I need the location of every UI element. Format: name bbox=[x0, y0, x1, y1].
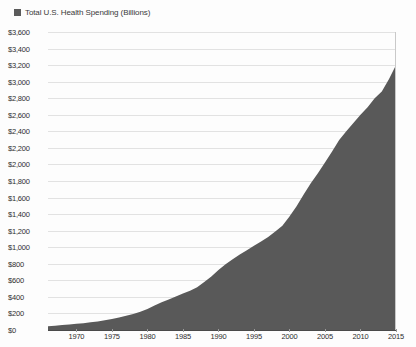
x-axis-tickmark bbox=[183, 329, 184, 332]
x-axis-tickmark bbox=[76, 329, 77, 332]
y-axis-tick-label: $600 bbox=[8, 276, 42, 285]
x-axis: 1970197519801985199019952000200520102015 bbox=[48, 332, 396, 346]
x-axis-tick-label: 1995 bbox=[246, 332, 262, 341]
plot-right-edge bbox=[395, 32, 396, 330]
x-axis-tick-label: 2000 bbox=[282, 332, 298, 341]
y-axis-tick-label: $2,200 bbox=[8, 143, 42, 152]
x-axis-tick-label: 2010 bbox=[353, 332, 369, 341]
y-axis-tick-label: $1,000 bbox=[8, 243, 42, 252]
x-axis-tickmark bbox=[254, 329, 255, 332]
y-axis-tick-label: $3,000 bbox=[8, 77, 42, 86]
y-axis-tick-label: $1,400 bbox=[8, 210, 42, 219]
y-axis-tick-label: $2,400 bbox=[8, 127, 42, 136]
gridline bbox=[48, 330, 396, 331]
x-axis-tickmark bbox=[289, 329, 290, 332]
y-axis-tick-label: $1,800 bbox=[8, 177, 42, 186]
y-axis-tick-label: $1,200 bbox=[8, 226, 42, 235]
x-axis-tick-label: 1990 bbox=[210, 332, 226, 341]
area-series bbox=[48, 32, 396, 330]
y-axis-tick-label: $3,200 bbox=[8, 61, 42, 70]
legend-swatch-icon bbox=[14, 9, 21, 16]
x-axis-tick-label: 1980 bbox=[139, 332, 155, 341]
x-axis-tick-label: 1985 bbox=[175, 332, 191, 341]
y-axis-tick-label: $3,400 bbox=[8, 44, 42, 53]
y-axis-tick-label: $2,000 bbox=[8, 160, 42, 169]
x-axis-tickmark bbox=[112, 329, 113, 332]
y-axis: $3,600$3,400$3,200$3,000$2,800$2,600$2,4… bbox=[0, 32, 46, 330]
x-axis-tickmark bbox=[147, 329, 148, 332]
y-axis-tick-label: $1,600 bbox=[8, 193, 42, 202]
legend-label: Total U.S. Health Spending (Billions) bbox=[25, 8, 150, 17]
y-axis-tick-label: $3,600 bbox=[8, 28, 42, 37]
y-axis-tick-label: $0 bbox=[8, 326, 42, 335]
x-axis-tick-label: 2005 bbox=[317, 332, 333, 341]
chart-figure: Total U.S. Health Spending (Billions) $3… bbox=[0, 0, 416, 347]
chart-legend: Total U.S. Health Spending (Billions) bbox=[14, 6, 150, 18]
x-axis-tickmark bbox=[360, 329, 361, 332]
y-axis-tick-label: $800 bbox=[8, 259, 42, 268]
x-axis-tickmark bbox=[325, 329, 326, 332]
x-axis-tick-label: 1970 bbox=[68, 332, 84, 341]
y-axis-tick-label: $200 bbox=[8, 309, 42, 318]
y-axis-tick-label: $2,800 bbox=[8, 94, 42, 103]
x-axis-tickmark bbox=[218, 329, 219, 332]
y-axis-tick-label: $2,600 bbox=[8, 110, 42, 119]
x-axis-tick-label: 2015 bbox=[388, 332, 404, 341]
x-axis-tickmark bbox=[396, 329, 397, 332]
plot-area bbox=[48, 32, 396, 330]
x-axis-tick-label: 1975 bbox=[104, 332, 120, 341]
y-axis-tick-label: $400 bbox=[8, 292, 42, 301]
area-series-path bbox=[48, 65, 396, 330]
